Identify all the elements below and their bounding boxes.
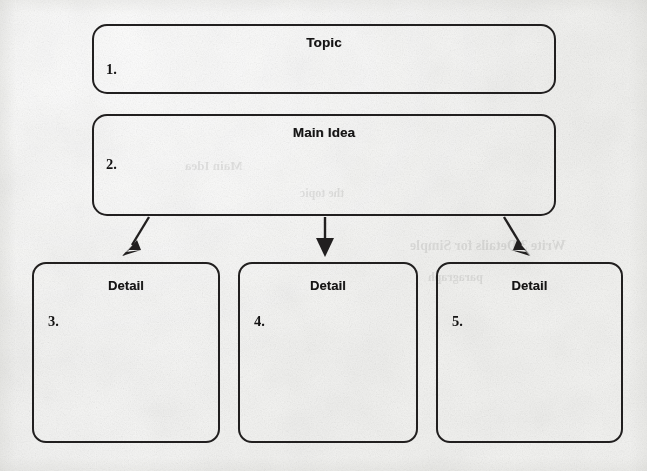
detail-box-2[interactable]: Detail 4. xyxy=(238,262,418,443)
main-idea-item-number: 2. xyxy=(106,157,117,172)
topic-item-number: 1. xyxy=(106,62,117,77)
graphic-organizer: Topic 1. Main Idea 2. Detail 3. Detail 4… xyxy=(0,0,647,471)
detail-item-number: 3. xyxy=(48,314,59,329)
detail-item-number: 5. xyxy=(452,314,463,329)
arrow-main-to-detail-1 xyxy=(122,217,149,256)
topic-box[interactable]: Topic 1. xyxy=(92,24,556,94)
detail-item-number: 4. xyxy=(254,314,265,329)
detail-box-1[interactable]: Detail 3. xyxy=(32,262,220,443)
topic-header-label: Topic xyxy=(94,35,554,50)
detail-header-label: Detail xyxy=(438,278,621,293)
detail-box-3[interactable]: Detail 5. xyxy=(436,262,623,443)
main-idea-box[interactable]: Main Idea 2. xyxy=(92,114,556,216)
arrow-main-to-detail-3 xyxy=(504,217,531,256)
main-idea-header-label: Main Idea xyxy=(94,125,554,140)
detail-header-label: Detail xyxy=(34,278,218,293)
arrow-main-to-detail-2 xyxy=(316,217,334,257)
detail-header-label: Detail xyxy=(240,278,416,293)
